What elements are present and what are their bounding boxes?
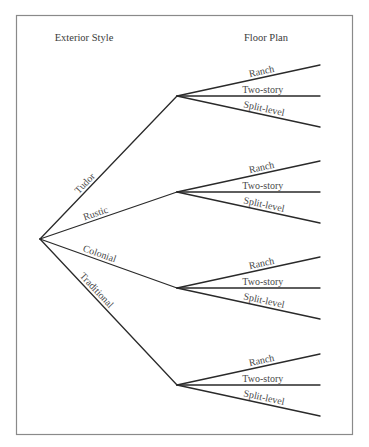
header-exterior-style: Exterior Style <box>55 32 114 43</box>
branch-edge-tudor <box>40 96 177 239</box>
branch-label-colonial: Colonial <box>82 242 118 264</box>
leaf-label-colonial-ranch: Ranch <box>248 255 275 271</box>
leaf-label-traditional-ranch: Ranch <box>248 352 275 368</box>
tree-diagram: Exterior Style Floor Plan TudorRanchTwo-… <box>0 0 369 447</box>
leaf-label-rustic-two-story: Two-story <box>242 180 283 191</box>
tree-edges <box>40 65 320 416</box>
leaf-label-traditional-two-story: Two-story <box>242 373 283 384</box>
leaf-label-rustic-ranch: Ranch <box>248 159 275 175</box>
branch-edge-colonial <box>40 239 177 288</box>
branch-label-traditional: Traditional <box>78 270 116 310</box>
header-floor-plan: Floor Plan <box>244 32 289 43</box>
leaf-label-tudor-ranch: Ranch <box>248 63 275 79</box>
tree-labels: TudorRanchTwo-storySplit-levelRusticRanc… <box>72 63 286 407</box>
diagram-frame <box>17 16 353 435</box>
branch-edge-rustic <box>40 192 177 239</box>
leaf-label-tudor-two-story: Two-story <box>242 84 283 95</box>
leaf-label-colonial-two-story: Two-story <box>242 276 283 287</box>
